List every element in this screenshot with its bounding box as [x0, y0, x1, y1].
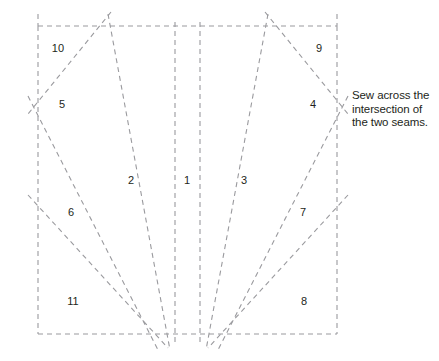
- seam-10-5-divider: [28, 12, 111, 114]
- piece-label-5: 5: [59, 99, 65, 110]
- figure-canvas: 1 2 3 4 5 6 7 8 9 10 11 Sew across the i…: [0, 0, 439, 361]
- seam-piece2-left-edge: [108, 14, 170, 350]
- piece-label-1: 1: [184, 175, 190, 186]
- piece-label-9: 9: [316, 43, 322, 54]
- block-diagram: [0, 0, 439, 361]
- seam-6-11-divider: [28, 195, 168, 348]
- sew-instruction: Sew across the intersection of the two s…: [352, 89, 438, 130]
- sew-instruction-line-3: the two seams.: [352, 116, 438, 130]
- sew-instruction-line-2: intersection of: [352, 103, 438, 117]
- seam-piece3-right-edge: [206, 14, 268, 350]
- seam-4-7-divider: [218, 96, 348, 350]
- seam-5-6-divider: [28, 96, 158, 350]
- piece-label-3: 3: [241, 175, 247, 186]
- piece-label-7: 7: [300, 207, 306, 218]
- sew-instruction-line-1: Sew across the: [352, 89, 438, 103]
- piece-label-10: 10: [52, 43, 64, 54]
- piece-label-4: 4: [310, 99, 316, 110]
- piece-label-11: 11: [67, 296, 79, 307]
- seam-9-4-divider: [265, 12, 348, 114]
- piece-label-6: 6: [68, 207, 74, 218]
- seam-7-8-divider: [208, 195, 348, 348]
- piece-label-8: 8: [301, 296, 307, 307]
- piece-label-2: 2: [128, 175, 134, 186]
